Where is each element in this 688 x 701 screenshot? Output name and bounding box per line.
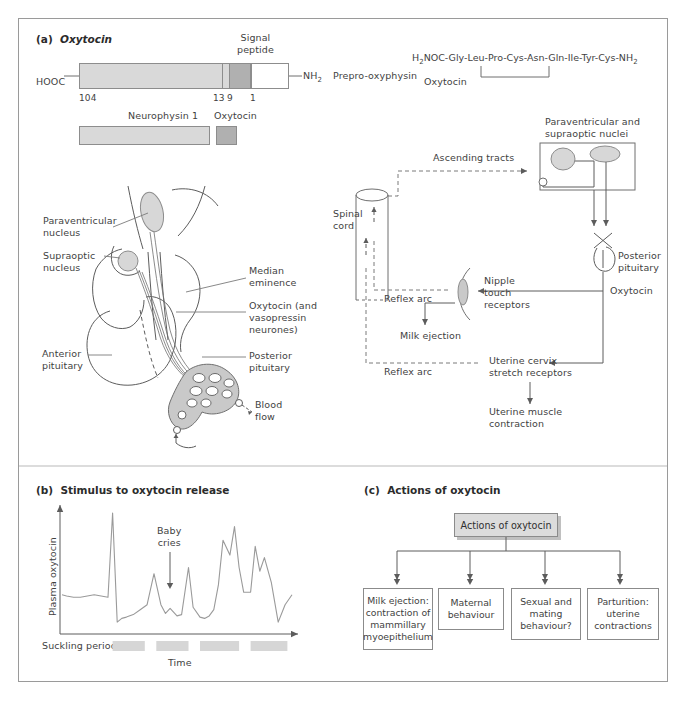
- panel-c-connectors: [0, 0, 688, 701]
- oxytocin-figure: (a) Oxytocin HOOC NH2 Prepro-oxyphysin S…: [0, 0, 688, 701]
- action-node-sexual-mating: Sexual and mating behaviour?: [511, 588, 581, 640]
- action-node-milk-ejection: Milk ejection: contraction of mammillary…: [363, 588, 433, 650]
- action-node-maternal-behaviour: Maternal behaviour: [438, 588, 504, 630]
- action-node-parturition: Parturition: uterine contractions: [587, 588, 659, 640]
